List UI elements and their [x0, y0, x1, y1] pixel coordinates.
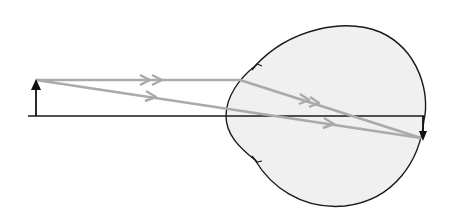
eye-ray-diagram — [0, 0, 450, 220]
